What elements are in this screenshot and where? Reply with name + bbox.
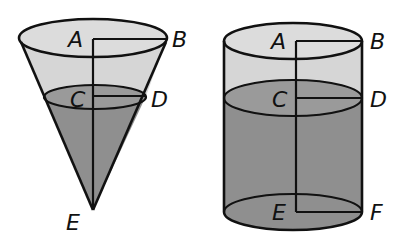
cone-label-D: D	[151, 87, 168, 112]
cone-label-A: A	[66, 27, 83, 52]
cylinder-label-A: A	[269, 29, 286, 54]
cylinder-label-B: B	[370, 29, 385, 54]
diagram-canvas: A B C D E A B C D E F	[0, 0, 416, 246]
cone-label-C: C	[70, 87, 86, 112]
cylinder-label-E: E	[272, 200, 286, 225]
cone-figure: A B C D E	[19, 19, 187, 235]
cone-label-B: B	[172, 27, 187, 52]
cylinder-label-D: D	[370, 87, 387, 112]
cone-label-E: E	[66, 210, 80, 235]
cylinder-label-F: F	[370, 200, 383, 225]
cone-liquid-region	[45, 96, 146, 210]
cylinder-label-C: C	[272, 87, 288, 112]
cylinder-figure: A B C D E F	[224, 23, 387, 230]
